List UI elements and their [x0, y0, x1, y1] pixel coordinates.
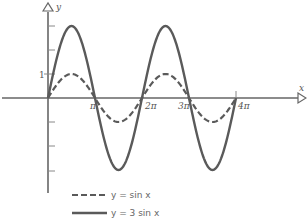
- x-axis-arrow-icon: [298, 93, 306, 103]
- y-axis-label: y: [55, 2, 62, 12]
- y-axis-arrow-icon: [43, 3, 53, 11]
- x-tick-2pi: 2π: [144, 101, 158, 111]
- x-axis-label: x: [299, 83, 304, 93]
- legend: y = sin x y = 3 sin x: [72, 190, 160, 218]
- sine-chart: y x 1 π 2π 3π 4π y = sin x y = 3 sin x: [0, 0, 307, 222]
- legend-label-sin: y = sin x: [111, 190, 151, 200]
- x-tick-4pi-label: 4π: [237, 101, 251, 111]
- legend-label-3sin: y = 3 sin x: [111, 208, 160, 218]
- y-tick-1: 1: [39, 70, 45, 80]
